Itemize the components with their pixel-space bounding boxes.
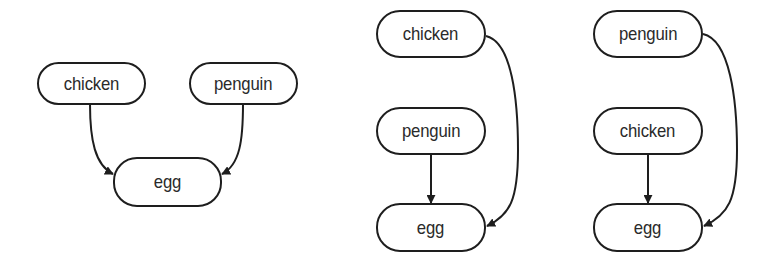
edge-middle-chicken-egg: [486, 36, 518, 226]
right-node-egg: egg: [593, 203, 703, 252]
left-node-chicken: chicken: [37, 62, 146, 105]
middle-node-penguin: penguin: [376, 107, 486, 155]
node-label: chicken: [620, 120, 675, 142]
node-label: penguin: [402, 120, 460, 142]
middle-node-chicken: chicken: [376, 10, 486, 58]
right-node-chicken: chicken: [593, 107, 703, 155]
node-label: penguin: [619, 23, 677, 45]
middle-node-egg: egg: [376, 203, 486, 252]
node-label: chicken: [403, 23, 458, 45]
edge-left-chicken-egg: [90, 104, 113, 174]
node-label: chicken: [64, 73, 119, 95]
node-label: egg: [417, 217, 444, 239]
left-node-egg: egg: [113, 157, 222, 207]
node-label: egg: [634, 217, 661, 239]
node-label: penguin: [214, 73, 272, 95]
left-node-penguin: penguin: [189, 62, 298, 105]
right-node-penguin: penguin: [593, 10, 703, 58]
edge-right-penguin-egg: [703, 34, 737, 226]
diagram-canvas: chicken penguin egg chicken penguin egg …: [0, 0, 768, 270]
node-label: egg: [154, 171, 181, 193]
edge-left-penguin-egg: [222, 104, 243, 174]
